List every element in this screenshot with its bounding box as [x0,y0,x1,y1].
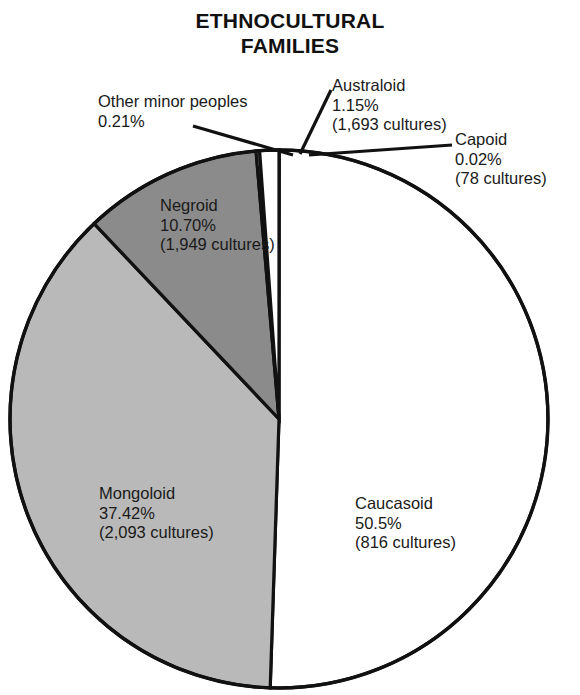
slice-label-count: (78 cultures) [455,169,547,189]
leader-line-australoid [300,90,331,154]
slice-label-name: Caucasoid [355,494,456,514]
slice-label-mongoloid: Mongoloid 37.42% (2,093 cultures) [99,484,214,543]
slice-label-caucasoid: Caucasoid 50.5% (816 cultures) [355,494,456,553]
slice-label-percent: 37.42% [99,504,214,524]
pie-chart-svg [0,0,580,695]
leader-line-capoid [309,145,452,155]
slice-label-name: Other minor peoples [98,92,248,112]
slice-label-percent: 50.5% [355,514,456,534]
pie-chart-figure: ETHNOCULTURAL FAMILIES Other minor peopl… [0,0,580,695]
slice-label-percent: 1.15% [332,96,447,116]
slice-label-negroid: Negroid 10.70% (1,949 cultures) [160,196,275,255]
slice-label-percent: 10.70% [160,216,275,236]
slice-label-percent: 0.21% [98,112,248,132]
pie-slice-group [10,150,548,688]
slice-label-count: (1,693 cultures) [332,115,447,135]
slice-label-name: Mongoloid [99,484,214,504]
slice-label-count: (1,949 cultures) [160,235,275,255]
slice-label-percent: 0.02% [455,150,547,170]
pie-slice-caucasoid [270,150,548,688]
slice-label-australoid: Australoid 1.15% (1,693 cultures) [332,76,447,135]
slice-label-count: (816 cultures) [355,533,456,553]
slice-label-name: Australoid [332,76,447,96]
slice-label-count: (2,093 cultures) [99,523,214,543]
slice-label-name: Negroid [160,196,275,216]
slice-label-name: Capoid [455,130,547,150]
slice-label-other-minor-peoples: Other minor peoples 0.21% [98,92,248,131]
slice-label-capoid: Capoid 0.02% (78 cultures) [455,130,547,189]
